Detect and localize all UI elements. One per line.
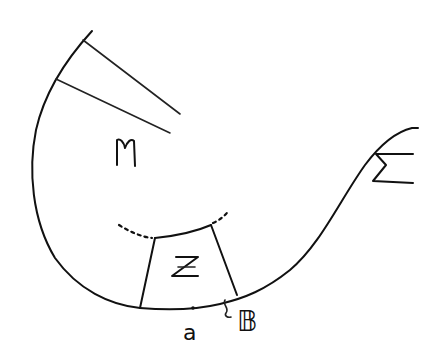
z-right-side (211, 225, 237, 295)
inner-arc-dotted-left (119, 225, 152, 238)
inner-arc-dotted-right (213, 210, 229, 223)
upper-ray (83, 40, 180, 114)
lower-ray (56, 79, 170, 133)
label-a: a (183, 322, 196, 344)
z-left-side (140, 238, 155, 308)
point-a (191, 306, 195, 310)
boundary-curve (32, 31, 418, 309)
label-b: 𝔹 (237, 308, 257, 336)
inner-arc (155, 225, 211, 238)
